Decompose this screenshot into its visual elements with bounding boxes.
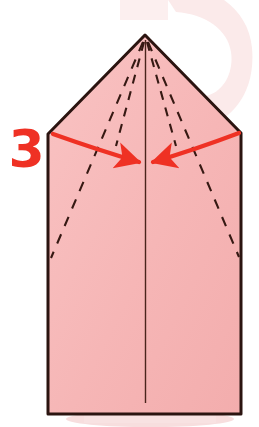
origami-diagram: 3 bbox=[0, 0, 259, 427]
step-number-label: 3 bbox=[6, 118, 46, 180]
folded-paper-shape bbox=[48, 35, 241, 414]
diagram-canvas bbox=[0, 0, 259, 427]
